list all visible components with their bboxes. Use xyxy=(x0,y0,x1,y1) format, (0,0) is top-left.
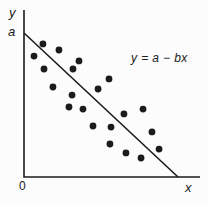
y-axis-label: y xyxy=(9,6,16,19)
scatter-plot-figure: y a 0 x y = a − bx xyxy=(0,0,208,204)
x-axis-label: x xyxy=(185,181,192,194)
plot-canvas xyxy=(0,0,208,204)
origin-tick-label: 0 xyxy=(19,180,26,192)
equation-annotation: y = a − bx xyxy=(131,52,188,64)
y-intercept-tick-label: a xyxy=(8,25,15,38)
